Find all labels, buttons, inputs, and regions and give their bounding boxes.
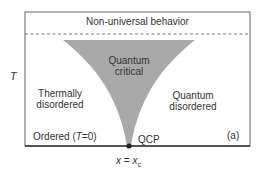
thermally-disordered-line1: Thermally bbox=[30, 88, 90, 99]
qcp-label: QCP bbox=[138, 134, 160, 145]
thermally-disordered-label: Thermally disordered bbox=[30, 88, 90, 110]
non-universal-label: Non-universal behavior bbox=[25, 16, 250, 27]
x-axis-label-eq: = bbox=[121, 155, 132, 166]
panel-label: (a) bbox=[227, 130, 239, 141]
quantum-critical-label: Quantum critical bbox=[100, 55, 158, 77]
quantum-disordered-label: Quantum disordered bbox=[162, 90, 224, 112]
thermally-disordered-line2: disordered bbox=[30, 99, 90, 110]
quantum-disordered-line2: disordered bbox=[162, 101, 224, 112]
ordered-label-prefix: Ordered ( bbox=[33, 131, 76, 142]
x-axis-label-subscript: c bbox=[137, 161, 141, 168]
quantum-disordered-line1: Quantum bbox=[162, 90, 224, 101]
y-axis-label: T bbox=[10, 71, 17, 82]
quantum-critical-line2: critical bbox=[100, 66, 158, 77]
x-axis-label: x = xc bbox=[116, 155, 141, 170]
quantum-critical-line1: Quantum bbox=[100, 55, 158, 66]
ordered-label: Ordered (T=0) bbox=[33, 131, 97, 142]
quantum-phase-diagram: T Non-universal behavior Quantum critica… bbox=[0, 0, 260, 177]
qcp-point bbox=[126, 143, 131, 148]
ordered-label-suffix: =0) bbox=[82, 131, 97, 142]
